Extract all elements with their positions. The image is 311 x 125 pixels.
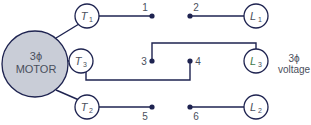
contact-5-label: 5	[142, 111, 148, 122]
contact-2-dot	[187, 13, 192, 18]
motor-label: MOTOR	[16, 63, 57, 75]
contact-4-dot	[187, 58, 192, 63]
motor-phase-label: 3ϕ	[30, 50, 42, 62]
contact-6-label: 6	[193, 111, 199, 122]
terminal-t2: T 2	[75, 95, 99, 119]
terminal-t3: T 3	[69, 49, 93, 73]
source-phase-label: 3ϕ	[288, 53, 300, 64]
svg-text:2: 2	[258, 107, 262, 114]
svg-text:L: L	[250, 55, 256, 67]
svg-text:1: 1	[89, 16, 93, 23]
svg-text:L: L	[250, 10, 256, 22]
wire-contact-3-l3	[152, 43, 256, 61]
wire-t3-contact-4	[86, 61, 190, 80]
contact-4-label: 4	[195, 56, 201, 67]
svg-text:2: 2	[89, 107, 93, 114]
terminal-l1: L 1	[244, 4, 268, 28]
contact-5-dot	[149, 104, 154, 109]
source-voltage-label: voltage	[278, 64, 311, 75]
contact-3-dot	[149, 58, 154, 63]
terminal-t1: T 1	[75, 4, 99, 28]
contact-1-dot	[149, 13, 154, 18]
wire-motor-t1	[56, 24, 79, 38]
terminal-l2: L 2	[244, 95, 268, 119]
contact-3-label: 3	[141, 56, 147, 67]
svg-text:3: 3	[83, 61, 87, 68]
wire-motor-t2	[56, 90, 79, 100]
contact-1-label: 1	[142, 2, 148, 13]
svg-text:L: L	[250, 101, 256, 113]
svg-text:3: 3	[258, 61, 262, 68]
motor: 3ϕ MOTOR	[2, 31, 68, 97]
terminal-l3: L 3	[244, 49, 268, 73]
svg-text:1: 1	[258, 16, 262, 23]
contact-6-dot	[187, 104, 192, 109]
contact-2-label: 2	[193, 2, 199, 13]
motor-wiring-diagram: 3ϕ MOTOR T 1 T 3 T 2 L 1 L 3 L 2 1 2 3	[0, 0, 311, 125]
